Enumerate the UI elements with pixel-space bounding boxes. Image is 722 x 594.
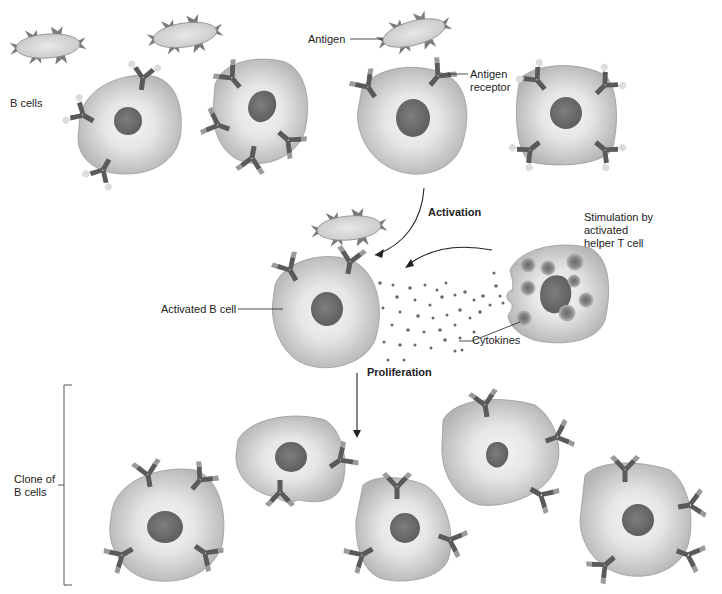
label-antigen: Antigen: [308, 33, 345, 46]
b-cell-1: [61, 60, 181, 191]
label-activation: Activation: [428, 206, 481, 219]
stimulation-arrow: [408, 247, 492, 265]
b-cell-2: [199, 57, 309, 176]
cytokines: [378, 272, 504, 362]
clone-cell-5: [580, 455, 707, 586]
clone-cell-1: [102, 458, 226, 582]
clone-cell-4: [442, 388, 576, 516]
clone-cell-2: [236, 416, 361, 507]
label-cytokines: Cytokines: [472, 334, 520, 347]
activated-b-cell: [270, 206, 389, 368]
clone-bracket: [58, 385, 72, 585]
b-cell-activation-diagram: B cells Antigen Antigen receptor Activat…: [0, 0, 722, 594]
clone-cell-3: [342, 472, 470, 581]
free-antigen-1: [9, 24, 87, 67]
label-stimulation: Stimulation by activated helper T cell: [584, 211, 653, 250]
b-cell-4: [508, 58, 628, 173]
helper-t-cell: [507, 245, 609, 343]
free-antigen-2: [145, 11, 226, 59]
label-proliferation: Proliferation: [367, 366, 432, 379]
b-cell-3-binding-antigen: [347, 5, 467, 174]
label-activated-b-cell: Activated B cell: [161, 303, 236, 316]
label-clone-of-b-cells: Clone of B cells: [14, 473, 55, 499]
label-antigen-receptor: Antigen receptor: [470, 68, 510, 94]
label-b-cells: B cells: [10, 97, 42, 110]
